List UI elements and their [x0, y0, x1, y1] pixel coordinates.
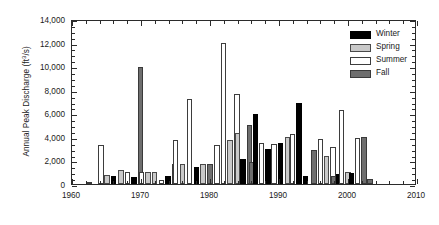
x-axis-minor-tick [155, 181, 156, 184]
y-axis-tick-10000 [72, 68, 77, 69]
x-axis-minor-tick [86, 21, 87, 24]
bar-fall-1995 [311, 150, 316, 184]
x-axis-minor-tick [389, 21, 390, 24]
x-axis-tick-label-2010: 2010 [407, 191, 425, 200]
y-axis-title-suffix: /s) [22, 46, 31, 55]
y-axis-tick-0 [410, 186, 415, 187]
y-axis-tick-0 [72, 186, 77, 187]
chart-figure: Annual Peak Discharge (ft3/s) Winter Spr… [0, 0, 439, 225]
bar-fall-2003 [367, 179, 372, 184]
x-axis-minor-tick [169, 21, 170, 24]
x-axis-minor-tick [100, 181, 101, 184]
bar-summer-1964 [98, 145, 103, 184]
legend-swatch-spring-icon [350, 44, 371, 52]
y-axis-tick-4000 [72, 139, 77, 140]
x-axis-minor-tick [265, 21, 266, 24]
y-axis-tick-8000 [410, 92, 415, 93]
bar-summer-1996 [318, 139, 323, 184]
legend-label-summer: Summer [376, 56, 407, 64]
y-axis-minor-tick [72, 121, 75, 122]
y-axis-minor-tick [72, 33, 75, 34]
x-axis-minor-tick [196, 181, 197, 184]
bar-summer-1989 [271, 144, 276, 184]
x-axis-minor-tick [251, 21, 252, 24]
x-axis-tick-label-2000: 2000 [338, 191, 356, 200]
y-axis-minor-tick [72, 151, 75, 152]
x-axis-tick-label-1990: 1990 [269, 191, 287, 200]
legend-swatch-fall-icon [350, 70, 371, 78]
bar-winter-1969 [131, 177, 136, 184]
x-axis-minor-tick [376, 21, 377, 24]
legend-item-winter: Winter [350, 29, 407, 40]
x-axis-minor-tick [127, 181, 128, 184]
bar-winter-2001 [349, 173, 354, 184]
bar-summer-1988 [259, 143, 264, 184]
x-axis-minor-tick [169, 181, 170, 184]
y-axis-tick-10000 [410, 68, 415, 69]
bar-spring-1967 [118, 170, 123, 184]
bar-spring-1983 [227, 140, 232, 184]
bar-summer-1973 [159, 180, 164, 184]
y-axis-minor-tick [412, 80, 415, 81]
x-axis-minor-tick [403, 21, 404, 24]
y-axis-minor-tick [412, 56, 415, 57]
x-axis-tick-label-1980: 1980 [200, 191, 218, 200]
y-axis-tick-label-0: 0 [60, 181, 65, 190]
y-axis-tick-label-14000: 14,000 [40, 16, 65, 25]
y-axis-minor-tick [412, 174, 415, 175]
y-axis-minor-tick [72, 86, 75, 87]
y-axis-minor-tick [412, 127, 415, 128]
x-axis-minor-tick [320, 21, 321, 24]
x-axis-minor-tick [334, 21, 335, 24]
y-axis-minor-tick [72, 56, 75, 57]
y-axis-minor-tick [72, 133, 75, 134]
y-axis-minor-tick [412, 62, 415, 63]
y-axis-minor-tick [412, 157, 415, 158]
y-axis-minor-tick [412, 145, 415, 146]
x-axis-minor-tick [113, 21, 114, 24]
bar-summer-1982 [221, 43, 226, 184]
legend-swatch-winter-icon [350, 31, 371, 39]
legend-label-fall: Fall [376, 69, 389, 77]
bar-winter-1993 [296, 103, 301, 184]
y-axis-minor-tick [72, 127, 75, 128]
y-axis-minor-tick [72, 174, 75, 175]
y-axis-tick-12000 [410, 45, 415, 46]
bar-spring-1979 [200, 164, 205, 184]
x-axis-tick-2010 [417, 179, 418, 184]
y-axis-tick-label-2000: 2,000 [45, 157, 66, 166]
bar-spring-1965 [104, 175, 109, 184]
x-axis-minor-tick [251, 181, 252, 184]
y-axis-minor-tick [72, 145, 75, 146]
bar-summer-1999 [339, 110, 344, 184]
legend-label-winter: Winter [376, 30, 400, 38]
y-axis-tick-2000 [410, 162, 415, 163]
x-axis-tick-1960 [72, 21, 73, 26]
x-axis-minor-tick [403, 181, 404, 184]
y-axis-minor-tick [412, 74, 415, 75]
x-axis-minor-tick [182, 181, 183, 184]
x-axis-tick-1970 [141, 21, 142, 26]
bar-fall-1963 [87, 182, 92, 184]
x-axis-minor-tick [362, 21, 363, 24]
y-axis-tick-2000 [72, 162, 77, 163]
x-axis-minor-tick [113, 181, 114, 184]
x-axis-tick-1980 [210, 21, 211, 26]
x-axis-tick-2000 [348, 21, 349, 26]
y-axis-minor-tick [72, 168, 75, 169]
legend-item-spring: Spring [350, 42, 407, 53]
y-axis-minor-tick [412, 168, 415, 169]
x-axis-minor-tick [265, 181, 266, 184]
x-axis-minor-tick [155, 21, 156, 24]
legend-swatch-summer-icon [350, 57, 371, 65]
x-axis-minor-tick [307, 21, 308, 24]
x-axis-minor-tick [307, 181, 308, 184]
x-axis-minor-tick [100, 21, 101, 24]
bar-winter-1988 [265, 149, 270, 184]
x-axis-minor-tick [86, 181, 87, 184]
x-axis-tick-label-1960: 1960 [62, 191, 80, 200]
bar-fall-2002 [361, 137, 366, 184]
y-axis-tick-label-12000: 12,000 [40, 39, 65, 48]
x-axis-tick-label-1970: 1970 [131, 191, 149, 200]
y-axis-minor-tick [72, 80, 75, 81]
